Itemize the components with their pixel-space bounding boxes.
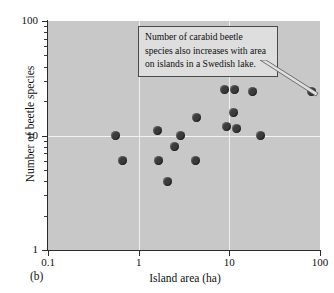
y-axis-minor-tick: [44, 147, 47, 148]
data-point: [118, 156, 127, 165]
y-axis-tick: [42, 21, 47, 22]
y-axis-minor-tick: [44, 170, 47, 171]
data-point: [192, 113, 201, 122]
data-point: [232, 124, 241, 133]
y-axis-minor-tick: [44, 101, 47, 102]
x-axis-line: [47, 250, 321, 251]
y-axis-minor-tick: [44, 81, 47, 82]
x-axis-tick-label: 1: [119, 256, 159, 268]
y-axis-minor-tick: [44, 141, 47, 142]
y-axis-tick-label: 100: [8, 14, 38, 26]
y-axis-tick-label: 1: [8, 243, 38, 255]
y-axis-minor-tick: [44, 39, 47, 40]
data-point: [248, 87, 257, 96]
data-point: [111, 131, 120, 140]
data-point: [220, 85, 229, 94]
y-axis-minor-tick: [44, 67, 47, 68]
data-point: [191, 156, 200, 165]
y-axis-minor-tick: [44, 195, 47, 196]
x-axis-tick-label: 10: [209, 256, 249, 268]
figure-panel-b: 1101000.1110100 Island area (ha) Number …: [0, 0, 334, 293]
data-point: [153, 126, 162, 135]
y-axis-minor-tick: [44, 153, 47, 154]
data-point: [163, 177, 172, 186]
y-axis-minor-tick: [44, 161, 47, 162]
y-axis-tick: [42, 136, 47, 137]
data-point: [170, 142, 179, 151]
data-point: [256, 131, 265, 140]
x-axis-title: Island area (ha): [110, 272, 260, 284]
y-axis-minor-tick: [44, 181, 47, 182]
data-point: [307, 87, 316, 96]
y-axis-minor-tick: [44, 26, 47, 27]
y-axis-minor-tick: [44, 32, 47, 33]
data-point: [154, 156, 163, 165]
panel-label: (b): [30, 270, 43, 282]
y-axis-tick: [42, 250, 47, 251]
annotation-callout: Number of carabid beetle species also in…: [138, 26, 278, 77]
data-point: [230, 85, 239, 94]
y-axis-line: [47, 20, 48, 251]
x-axis-tick-label: 100: [300, 256, 334, 268]
y-axis-minor-tick: [44, 55, 47, 56]
y-axis-minor-tick: [44, 46, 47, 47]
data-point: [176, 131, 185, 140]
y-axis-title: Number of beetle species: [24, 34, 36, 214]
x-axis-tick-label: 0.1: [28, 256, 68, 268]
y-axis-minor-tick: [44, 216, 47, 217]
data-point: [222, 122, 231, 131]
data-point: [229, 108, 238, 117]
